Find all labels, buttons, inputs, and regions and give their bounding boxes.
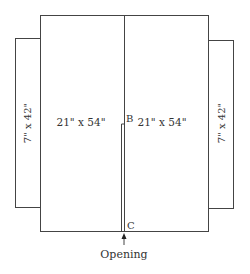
left-main-panel-label: 21" x 54" [57,116,106,128]
right-main-panel-label: 21" x 54" [138,116,187,128]
opening-label: Opening [100,248,147,261]
opening-arrow-icon [122,233,127,239]
left-flap-label: 7" x 42" [22,103,33,143]
point-b-label: B [126,113,133,124]
point-c-label: C [127,220,135,231]
right-flap-label: 7" x 42" [216,103,227,143]
pattern-diagram: 21" x 54" 21" x 54" 7" x 42" 7" x 42" B … [0,0,250,274]
